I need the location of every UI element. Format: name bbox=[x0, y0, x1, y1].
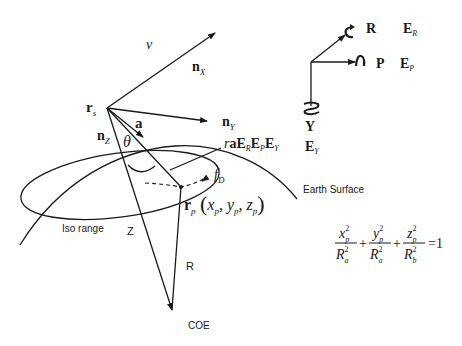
z-label: Z bbox=[127, 225, 134, 237]
pitch-rotation-icon bbox=[356, 56, 364, 66]
velocity-label: v bbox=[146, 37, 153, 52]
eq-term2-numerator: y2p bbox=[371, 224, 383, 244]
doppler-curve bbox=[145, 178, 205, 187]
ny-vector bbox=[107, 108, 207, 121]
a-label: a bbox=[135, 115, 143, 131]
theta-label: θ bbox=[123, 133, 131, 150]
earth-surface-label: Earth Surface bbox=[303, 184, 365, 195]
rotation-expression: raEREPEY bbox=[224, 136, 280, 153]
sar-geometry-diagram: v nX rs nY a nZ θ raEREPEY fD rp) (xp, y… bbox=[0, 0, 462, 346]
pitch-label: P bbox=[376, 56, 385, 71]
slant-range-line bbox=[107, 108, 181, 187]
rs-label: rs bbox=[86, 99, 97, 118]
coe-label: COE bbox=[188, 320, 210, 331]
nx-label: nX bbox=[192, 59, 206, 77]
yaw-label: Y bbox=[305, 119, 315, 134]
target-point bbox=[179, 185, 183, 189]
pitch-matrix-label: EP bbox=[400, 56, 414, 73]
iso-range-ellipse bbox=[17, 139, 224, 230]
roll-label: R bbox=[366, 21, 377, 36]
ellipsoid-equation: x2p R2a + y2p R2a + z2p R2b =1 bbox=[335, 224, 443, 265]
eq-term1-numerator: x2p bbox=[338, 224, 349, 244]
eq-term2-denominator: R2a bbox=[369, 245, 383, 265]
roll-axis bbox=[311, 35, 345, 62]
r-label: R bbox=[186, 260, 194, 272]
eq-equals-one: =1 bbox=[428, 236, 443, 251]
nz-label: nZ bbox=[97, 128, 111, 146]
eq-term3-denominator: R2b bbox=[403, 245, 417, 265]
attitude-axes: R ER P EP Y EY bbox=[304, 21, 417, 156]
ny-label: nY bbox=[222, 114, 236, 132]
roll-matrix-label: ER bbox=[403, 21, 417, 38]
yaw-matrix-label: EY bbox=[305, 139, 320, 156]
rp-coordinates: (xp, yp, zp) bbox=[200, 191, 265, 216]
eq-term3-numerator: z2p bbox=[406, 224, 416, 244]
roll-rotation-arrowhead bbox=[350, 24, 355, 30]
theta-arc bbox=[128, 165, 155, 172]
iso-range-label: Iso range bbox=[62, 223, 104, 234]
eq-plus-1: + bbox=[359, 236, 367, 251]
eq-plus-2: + bbox=[393, 236, 401, 251]
eq-term1-denominator: R2a bbox=[335, 245, 349, 265]
